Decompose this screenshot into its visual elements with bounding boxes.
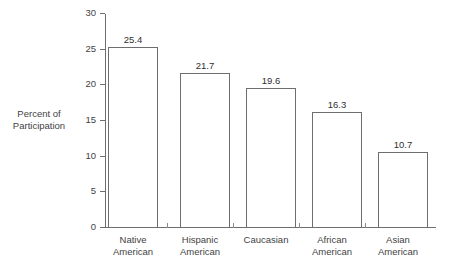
chart-title: [0, 0, 449, 1]
y-tick-5: 5: [100, 191, 105, 192]
bar-value-asian-american: 10.7: [394, 139, 413, 150]
x-label-asian-american-line-1: Asian: [358, 234, 438, 246]
bar-value-hispanic-american: 21.7: [196, 60, 215, 71]
y-tick-label-5: 5: [91, 185, 96, 196]
y-tick-25: 25: [100, 49, 105, 50]
x-minor-tick-2: [233, 223, 234, 228]
bar-value-caucasian: 19.6: [262, 75, 281, 86]
y-tick-label-15: 15: [85, 114, 96, 125]
y-tick-10: 10: [100, 156, 105, 157]
bar-value-african-american: 16.3: [328, 99, 347, 110]
y-tick-20: 20: [100, 84, 105, 85]
y-tick-15: 15: [100, 120, 105, 121]
y-tick-label-25: 25: [85, 43, 96, 54]
y-tick-label-20: 20: [85, 78, 96, 89]
y-tick-label-10: 10: [85, 150, 96, 161]
y-axis-title-line-1: Percent of: [2, 108, 76, 120]
x-minor-tick-3: [299, 223, 300, 228]
bar-hispanic-american: 21.7: [180, 73, 230, 228]
y-axis-title-line-2: Participation: [2, 120, 76, 132]
y-tick-0: 0: [100, 227, 105, 228]
bar-native-american: 25.4: [108, 47, 158, 228]
bar-asian-american: 10.7: [378, 152, 428, 228]
x-minor-tick-4: [365, 223, 366, 228]
bar-african-american: 16.3: [312, 112, 362, 228]
y-tick-30: 30: [100, 13, 105, 14]
x-label-hispanic-american-line-2: American: [160, 246, 240, 258]
x-label-asian-american: Asian American: [358, 234, 438, 258]
y-axis-line: [105, 14, 106, 228]
plot-area: 0 5 10 15 20 25 30 25.4 21.7: [105, 14, 436, 228]
y-tick-label-30: 30: [85, 7, 96, 18]
x-minor-tick-1: [167, 223, 168, 228]
y-tick-label-0: 0: [91, 221, 96, 232]
bar-caucasian: 19.6: [246, 88, 296, 228]
y-axis-title: Percent of Participation: [2, 108, 76, 132]
bar-value-native-american: 25.4: [124, 34, 143, 45]
bar-chart: Percent of Participation 0 5 10 15 20 25…: [0, 0, 449, 279]
x-label-asian-american-line-2: American: [358, 246, 438, 258]
